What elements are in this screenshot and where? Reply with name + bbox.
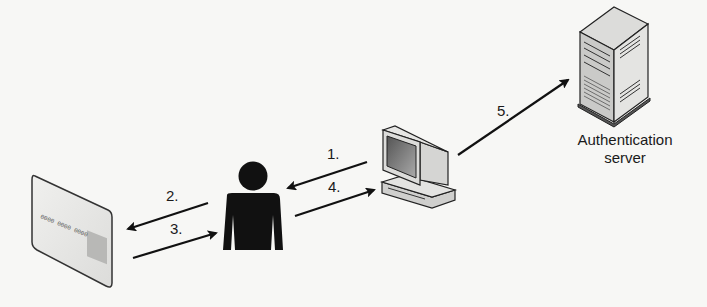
server-label: Authentication server <box>550 131 700 167</box>
user-icon <box>223 162 283 251</box>
step-label-3: 3. <box>170 220 183 237</box>
step-label-1: 1. <box>327 145 340 162</box>
computer-icon <box>382 126 455 208</box>
step-label-4: 4. <box>328 178 341 195</box>
step-label-2: 2. <box>166 187 179 204</box>
server-icon <box>578 7 650 127</box>
step-label-5: 5. <box>497 102 510 119</box>
server-label-line2: server <box>550 149 700 167</box>
server-label-line1: Authentication <box>550 131 700 149</box>
arrow-step-2 <box>128 203 208 229</box>
smart-card-icon: 0000 0000 0000 <box>32 176 112 288</box>
